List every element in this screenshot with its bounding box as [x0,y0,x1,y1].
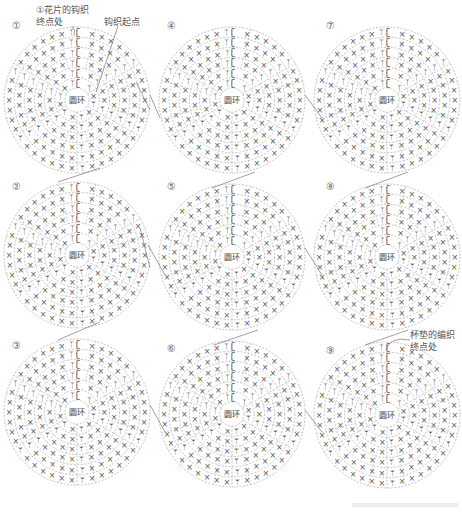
svg-text:×: × [275,400,282,409]
svg-text:×: × [284,81,291,90]
svg-text:×: × [18,236,25,245]
svg-text:×: × [242,229,249,238]
svg-text:×: × [286,258,293,267]
svg-text:×: × [59,307,66,316]
svg-text:ᛉ: ᛉ [380,394,385,403]
svg-text:ʗ: ʗ [231,226,235,235]
svg-text:×: × [361,283,368,292]
svg-text:×: × [263,194,270,203]
svg-text:ᛘ: ᛘ [54,269,59,278]
svg-text:ᛘ: ᛘ [234,123,239,132]
svg-text:×: × [131,256,138,265]
svg-text:ᛘ: ᛘ [282,277,287,286]
svg-text:×: × [186,200,193,209]
svg-text:×: × [204,316,211,325]
svg-text:ᛉ: ᛉ [380,226,385,235]
svg-text:×: × [191,101,198,110]
svg-text:×: × [59,131,66,140]
svg-text:×: × [103,119,110,128]
svg-text:×: × [407,452,414,461]
svg-text:×: × [409,244,416,253]
svg-text:×: × [262,143,269,152]
svg-text:×: × [431,444,438,453]
svg-text:×: × [337,86,344,95]
svg-text:×: × [59,363,66,372]
svg-text:×: × [115,210,122,219]
svg-text:ʗ: ʗ [386,185,390,194]
svg-text:×: × [40,37,47,46]
svg-text:×: × [351,206,358,215]
svg-text:×: × [108,37,115,46]
svg-text:×: × [258,433,265,442]
svg-text:×: × [421,416,428,425]
svg-text:×: × [214,152,221,161]
svg-text:×: × [161,106,168,115]
svg-text:ᛘ: ᛘ [235,164,240,173]
svg-text:×: × [69,455,76,464]
svg-text:×: × [379,290,386,299]
svg-text:×: × [426,464,433,473]
svg-text:×: × [253,148,260,157]
svg-text:×: × [203,105,210,114]
svg-text:×: × [98,33,105,42]
svg-text:ᛉ: ᛉ [195,239,200,248]
svg-text:×: × [16,403,23,412]
svg-text:×: × [398,446,405,455]
svg-text:×: × [340,430,347,439]
svg-text:×: × [6,418,13,427]
svg-text:×: × [31,304,38,313]
svg-text:×: × [350,352,357,361]
svg-text:×: × [399,467,406,476]
svg-text:×: × [276,443,283,452]
svg-text:×: × [398,131,405,140]
svg-text:×: × [212,257,219,266]
svg-text:ᛉ: ᛉ [58,92,63,101]
svg-text:×: × [275,86,282,95]
svg-text:ᛘ: ᛘ [328,291,333,300]
svg-text:×: × [407,137,414,146]
svg-text:×: × [397,435,404,444]
svg-text:ʗ: ʗ [231,38,235,47]
svg-text:ᛉ: ᛉ [177,386,182,395]
svg-text:×: × [108,349,115,358]
svg-text:×: × [12,125,19,134]
svg-text:×: × [9,231,16,240]
svg-text:×: × [204,358,211,367]
svg-text:ᛘ: ᛘ [234,427,239,436]
svg-text:×: × [196,143,203,152]
svg-text:×: × [346,248,353,257]
svg-text:ᛘ: ᛘ [54,114,59,123]
svg-text:×: × [89,317,96,326]
svg-text:×: × [441,406,448,415]
svg-text:×: × [359,201,366,210]
svg-text:ᛉ: ᛉ [380,59,385,68]
svg-text:×: × [88,131,95,140]
svg-text:×: × [97,137,104,146]
svg-text:×: × [408,474,415,483]
watermark [352,503,458,507]
svg-text:ʗ: ʗ [76,38,80,47]
svg-text:×: × [101,251,108,260]
svg-text:ʗ: ʗ [231,383,235,392]
svg-text:×: × [371,241,378,250]
svg-text:ᛘ: ᛘ [136,280,141,289]
svg-text:×: × [379,133,386,142]
svg-text:×: × [27,398,34,407]
svg-text:×: × [272,391,279,400]
svg-text:×: × [24,362,31,371]
svg-text:×: × [379,321,386,330]
svg-text:×: × [115,292,122,301]
svg-text:×: × [194,424,201,433]
svg-text:×: × [244,197,251,206]
svg-text:×: × [356,96,363,105]
svg-text:ʗ: ʗ [76,234,80,243]
svg-text:×: × [195,37,202,46]
svg-text:ʗ: ʗ [386,215,390,224]
svg-text:×: × [294,390,301,399]
svg-text:×: × [343,294,350,303]
svg-text:×: × [336,63,343,72]
svg-text:×: × [369,208,376,217]
svg-text:ᛘ: ᛘ [389,133,394,142]
svg-text:×: × [253,190,260,199]
svg-text:×: × [278,299,285,308]
